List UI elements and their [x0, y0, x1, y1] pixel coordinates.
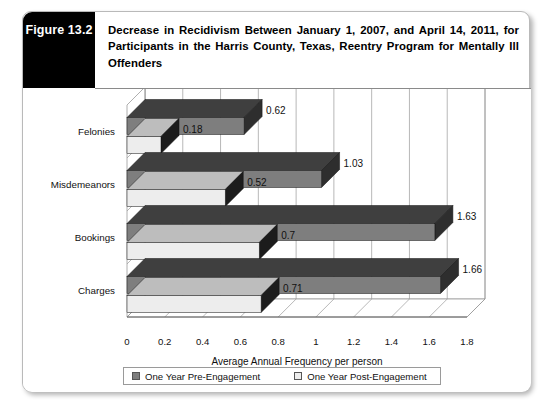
x-axis-tick-label: 0.8: [271, 336, 284, 347]
legend-swatch-pre-icon: [132, 372, 140, 380]
category-label: Charges: [78, 285, 115, 296]
bar-top-face: [127, 259, 459, 277]
category-label: Felonies: [78, 126, 115, 137]
x-axis-tick-label: 1.8: [460, 336, 473, 347]
chart-legend: One Year Pre-Engagement One Year Post-En…: [123, 367, 441, 385]
bar-front-face: [127, 243, 259, 260]
bar-value-label: 1.66: [463, 264, 483, 275]
legend-label-post: One Year Post-Engagement: [307, 371, 426, 382]
legend-label-pre: One Year Pre-Engagement: [145, 371, 260, 382]
x-axis-tick-label: 1.4: [385, 336, 399, 347]
bar-top-face: [127, 100, 262, 118]
bar-value-label: 0.7: [281, 230, 295, 241]
legend-swatch-post-icon: [294, 372, 302, 380]
bar-top-face: [127, 225, 277, 243]
bar-value-label: 1.03: [344, 158, 364, 169]
x-axis-tick-label: 0.6: [234, 336, 247, 347]
x-axis-title: Average Annual Frequency per person: [211, 356, 382, 367]
bar-value-label: 0.62: [266, 105, 286, 116]
bar-value-label: 0.52: [247, 177, 267, 188]
bar-top-face: [127, 153, 340, 171]
x-axis-tick-label: 0.4: [196, 336, 210, 347]
bar-top-face: [127, 206, 453, 224]
figure-title: Decrease in Recidivism Between January 1…: [95, 12, 531, 88]
x-axis-tick-label: 0: [124, 336, 129, 347]
x-axis-tick-label: 0.2: [158, 336, 171, 347]
bar-chart-graphic: 00.20.40.60.811.21.41.61.8FeloniesMisdem…: [23, 89, 531, 392]
chart-plot-area: 00.20.40.60.811.21.41.61.8FeloniesMisdem…: [23, 89, 531, 392]
bar-front-face: [127, 296, 261, 313]
x-axis-tick-label: 1.6: [423, 336, 436, 347]
bar-value-label: 0.18: [183, 124, 203, 135]
bar-front-face: [127, 137, 161, 154]
x-axis-tick-label: 1: [313, 336, 318, 347]
figure-number-badge: Figure 13.2: [23, 12, 95, 88]
figure-card: Figure 13.2 Decrease in Recidivism Betwe…: [22, 11, 530, 392]
bar-value-label: 1.63: [457, 211, 477, 222]
bar-top-face: [127, 172, 243, 190]
category-label: Bookings: [75, 232, 115, 243]
bar-top-face: [127, 278, 279, 296]
figure-header: Figure 13.2 Decrease in Recidivism Betwe…: [23, 12, 531, 88]
bar-value-label: 0.71: [283, 283, 303, 294]
category-label: Misdemeanors: [51, 179, 115, 190]
legend-item-post-engagement[interactable]: One Year Post-Engagement: [294, 371, 426, 382]
x-axis-tick-label: 1.2: [347, 336, 360, 347]
legend-item-pre-engagement[interactable]: One Year Pre-Engagement: [132, 371, 260, 382]
bar-front-face: [127, 190, 225, 207]
